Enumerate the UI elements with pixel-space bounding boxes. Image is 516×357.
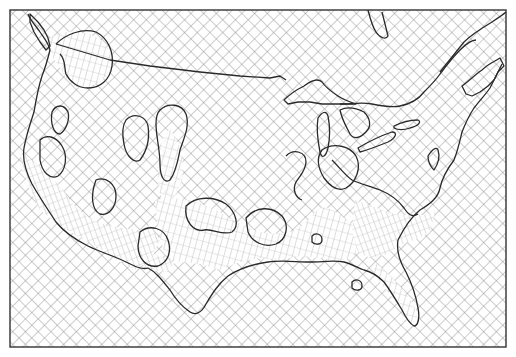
us-distortion-map	[0, 0, 516, 357]
map-figure	[0, 0, 516, 357]
